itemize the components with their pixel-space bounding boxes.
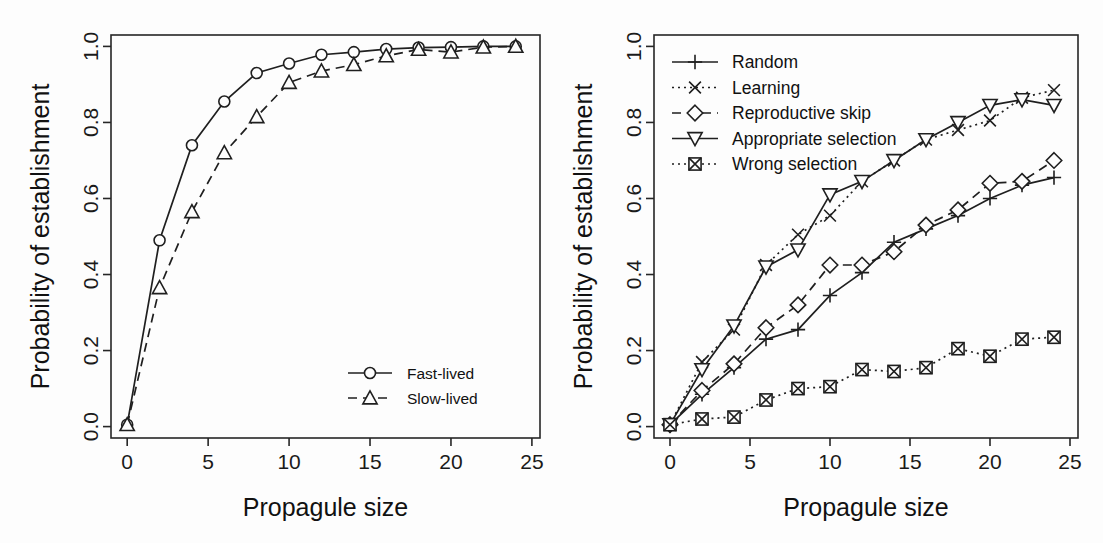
y-tick-label: 0.0 [623,412,646,441]
y-tick-label: 0.6 [623,184,646,213]
marker-circle [284,58,295,69]
x-tick-label: 0 [121,450,133,473]
legend-label: Learning [732,78,800,98]
marker-triangle-up [152,281,166,294]
marker-diamond [694,383,710,399]
marker-circle [316,49,327,60]
marker-diamond [982,176,998,192]
panel-right: 05101520250.00.20.40.60.81.0Propagule si… [569,32,1082,521]
scientific-figure: 05101520250.00.20.40.60.81.0Propagule si… [0,0,1103,543]
marker-cross [1048,84,1060,96]
legend-label: Wrong selection [732,154,857,174]
y-axis-title: Probability of establishment [569,84,597,390]
marker-diamond [1046,153,1062,169]
legend-label: Slow-lived [407,390,478,407]
y-tick-label: 0.6 [80,184,103,213]
x-tick-label: 10 [277,450,300,473]
x-axis-title: Propagule size [243,493,408,521]
y-tick-label: 1.0 [623,32,646,61]
x-tick-label: 10 [818,450,841,473]
marker-triangle-down [983,99,997,112]
y-tick-label: 0.8 [623,108,646,137]
y-tick-label: 0.0 [80,412,103,441]
marker-cross [792,229,804,241]
x-tick-label: 5 [202,450,214,473]
marker-triangle-down [823,189,837,202]
series-wrong-selection [664,331,1060,431]
marker-diamond [822,257,838,273]
x-tick-label: 5 [744,450,756,473]
x-tick-label: 25 [520,450,543,473]
y-tick-label: 0.4 [623,260,646,290]
marker-diamond [687,105,703,121]
marker-circle [251,68,262,79]
legend-label: Reproductive skip [732,103,871,123]
legend-right: RandomLearningReproductive skipAppropria… [672,52,896,174]
marker-triangle-down [1047,99,1061,112]
marker-diamond [758,320,774,336]
legend-label: Fast-lived [407,365,474,382]
x-tick-label: 0 [664,450,676,473]
x-tick-label: 20 [439,450,462,473]
panel-left: 05101520250.00.20.40.60.81.0Propagule si… [26,32,544,521]
x-tick-label: 25 [1058,450,1081,473]
legend-label: Appropriate selection [732,129,896,149]
marker-triangle-up [282,75,296,88]
marker-cross [984,115,996,127]
marker-triangle-up [185,205,199,218]
series-line [670,160,1054,424]
marker-triangle-down [791,244,805,257]
marker-circle [186,140,197,151]
marker-plus [688,55,702,69]
y-tick-label: 1.0 [80,32,103,61]
marker-circle [365,368,376,379]
marker-triangle-down [727,320,741,333]
figure-canvas: 05101520250.00.20.40.60.81.0Propagule si… [0,0,1103,543]
x-tick-label: 15 [358,450,381,473]
marker-plus [983,191,997,205]
y-tick-label: 0.2 [80,336,103,365]
y-tick-label: 0.4 [80,260,103,290]
marker-triangle-down [759,261,773,274]
marker-diamond [854,257,870,273]
x-axis-title: Propagule size [783,493,948,521]
marker-cross [824,210,836,222]
plot-frame [111,35,540,438]
marker-plus [1047,170,1061,184]
y-axis-title: Probability of establishment [26,84,54,390]
x-tick-label: 20 [978,450,1001,473]
series-random [663,170,1061,431]
legend-left: Fast-livedSlow-lived [348,365,478,407]
marker-triangle-up [217,146,231,159]
marker-circle [219,96,230,107]
series-reproductive-skip [662,153,1062,433]
marker-triangle-down [951,117,965,130]
y-tick-label: 0.8 [80,108,103,137]
marker-circle [154,235,165,246]
series-line [670,178,1054,425]
legend-label: Random [732,52,798,72]
x-tick-label: 15 [898,450,921,473]
y-tick-label: 0.2 [623,336,646,365]
